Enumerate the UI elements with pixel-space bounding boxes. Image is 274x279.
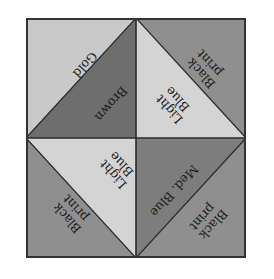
quilt-block-diagram: Gold Brown Black print Light Blue Light … (26, 18, 246, 258)
quilt-svg: Gold Brown Black print Light Blue Light … (26, 18, 246, 258)
